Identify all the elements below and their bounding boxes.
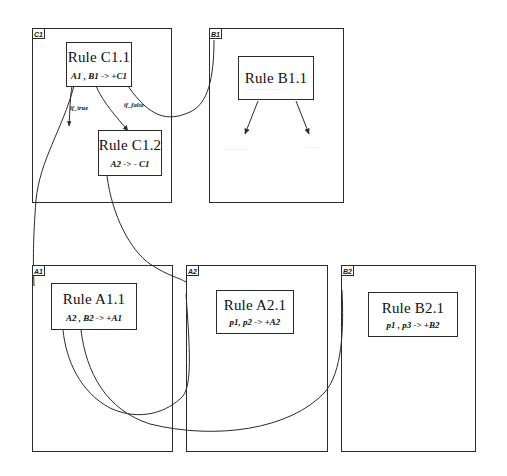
rule-title-a2-1: Rule A2.1 bbox=[224, 297, 287, 314]
module-tab-a1: A1 bbox=[32, 265, 45, 276]
module-tab-a2: A2 bbox=[186, 265, 199, 276]
b1-leaf-text-right: .............. bbox=[302, 144, 322, 149]
diagram-canvas: C1 Rule C1.1 A1 , B1 -> +C1 Rule C1.2 A2… bbox=[0, 0, 507, 476]
rule-body-a2-1: p1, p2 -> +A2 bbox=[230, 317, 281, 327]
rule-box-b2-1[interactable]: Rule B2.1 p1 , p3 -> +B2 bbox=[368, 292, 458, 337]
rule-box-a2-1[interactable]: Rule A2.1 p1, p2 -> +A2 bbox=[216, 290, 294, 334]
b1-leaf-text-left: .................. bbox=[224, 146, 249, 151]
edge-b11-left-arrow bbox=[245, 101, 258, 134]
rule-body-a1-1: A2 , B2 -> +A1 bbox=[66, 313, 122, 323]
rule-title-b2-1: Rule B2.1 bbox=[382, 300, 445, 317]
rule-body-b2-1: p1 , p3 -> +B2 bbox=[386, 320, 439, 330]
edge-b11-right-arrow bbox=[296, 101, 309, 134]
module-tab-b2: B2 bbox=[341, 265, 354, 276]
rule-title-a1-1: Rule A1.1 bbox=[63, 291, 126, 308]
rule-box-a1-1[interactable]: Rule A1.1 A2 , B2 -> +A1 bbox=[51, 283, 137, 330]
